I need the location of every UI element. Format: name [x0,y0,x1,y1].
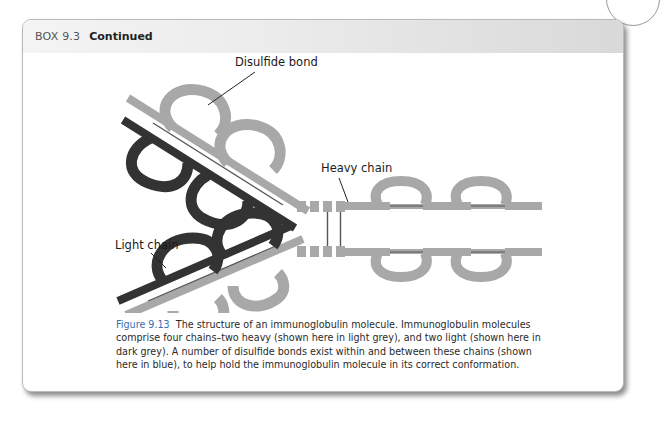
lower-arm [118,213,303,313]
caption-text: The structure of an immunoglobulin molec… [116,319,541,370]
fc-lower [345,248,542,277]
heavy-chain-leader [339,178,348,202]
light-chain-label: Light chain [115,238,179,252]
disulfide-bond-label: Disulfide bond [235,55,318,69]
immunoglobulin-diagram: Disulfide bond Heavy chain Light chain [23,53,623,313]
figure-number: Figure 9.13 [116,319,170,330]
hinge-region [297,201,345,257]
figure-caption: Figure 9.13 The structure of an immunogl… [116,318,546,372]
box-title: Continued [89,30,153,43]
box-label: BOX 9.3 [35,30,80,43]
fc-upper [345,181,542,210]
textbook-box: BOX 9.3 Continued [22,19,624,392]
heavy-chain-label: Heavy chain [321,161,392,175]
upper-arm [123,89,308,228]
box-header: BOX 9.3 Continued [23,20,623,53]
disulfide-bond-leader [208,72,255,105]
